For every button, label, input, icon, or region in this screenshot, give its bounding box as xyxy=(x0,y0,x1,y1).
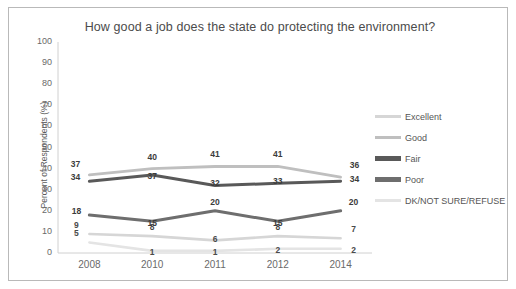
legend-item-label: Excellent xyxy=(405,112,442,122)
y-tick-label: 60 xyxy=(26,120,52,130)
y-tick-label: 90 xyxy=(26,57,52,67)
data-label: 37 xyxy=(142,171,162,181)
legend-item-dk-not-sure-refuse[interactable]: DK/NOT SURE/REFUSE xyxy=(375,190,507,211)
data-label: 40 xyxy=(142,152,162,162)
y-tick-label: 40 xyxy=(26,163,52,173)
legend-item-label: DK/NOT SURE/REFUSE xyxy=(405,196,505,206)
x-tick-label: 2011 xyxy=(190,259,240,270)
y-tick-label: 70 xyxy=(26,99,52,109)
data-label: 18 xyxy=(66,206,86,216)
legend-item-poor[interactable]: Poor xyxy=(375,169,507,190)
data-label: 36 xyxy=(345,160,365,170)
data-label: 15 xyxy=(268,218,288,228)
data-label: 41 xyxy=(268,149,288,159)
data-label: 34 xyxy=(345,174,365,184)
y-tick-label: 50 xyxy=(26,142,52,152)
legend-swatch-icon xyxy=(375,177,401,182)
y-tick-label: 80 xyxy=(26,78,52,88)
data-label: 20 xyxy=(344,197,364,207)
y-tick-label: 100 xyxy=(26,36,52,46)
y-tick-label: 10 xyxy=(26,226,52,236)
legend-swatch-icon xyxy=(375,136,401,140)
data-label: 1 xyxy=(205,247,225,257)
data-label: 41 xyxy=(205,149,225,159)
data-label: 15 xyxy=(142,218,162,228)
y-tick-label: 0 xyxy=(26,247,52,257)
data-label: 20 xyxy=(205,197,225,207)
series-line-poor xyxy=(89,211,340,222)
data-label: 37 xyxy=(65,159,85,169)
legend-swatch-icon xyxy=(375,156,401,161)
series-line-good xyxy=(89,166,340,177)
legend-item-label: Poor xyxy=(405,175,424,185)
data-label: 34 xyxy=(65,172,85,182)
legend-item-label: Good xyxy=(405,133,427,143)
x-tick-label: 2010 xyxy=(127,259,177,270)
data-label: 2 xyxy=(268,245,288,255)
legend-swatch-icon xyxy=(375,199,401,203)
y-tick-label: 20 xyxy=(26,205,52,215)
axis-lines xyxy=(58,42,372,253)
legend-item-fair[interactable]: Fair xyxy=(375,148,507,169)
x-tick-label: 2008 xyxy=(64,259,114,270)
data-label: 33 xyxy=(268,176,288,186)
chart-figure: How good a job does the state do protect… xyxy=(0,0,516,289)
data-label: 2 xyxy=(344,245,364,255)
legend-item-label: Fair xyxy=(405,154,421,164)
legend-item-excellent[interactable]: Excellent xyxy=(375,106,507,127)
legend-item-good[interactable]: Good xyxy=(375,127,507,148)
chart-legend: ExcellentGoodFairPoorDK/NOT SURE/REFUSE xyxy=(375,106,507,211)
x-tick-label: 2014 xyxy=(316,259,366,270)
legend-swatch-icon xyxy=(375,115,401,119)
data-label: 32 xyxy=(205,178,225,188)
x-tick-label: 2012 xyxy=(253,259,303,270)
data-label: 1 xyxy=(142,247,162,257)
data-label: 5 xyxy=(66,228,86,238)
y-tick-label: 30 xyxy=(26,184,52,194)
data-label: 6 xyxy=(205,234,225,244)
data-label: 7 xyxy=(344,224,364,234)
